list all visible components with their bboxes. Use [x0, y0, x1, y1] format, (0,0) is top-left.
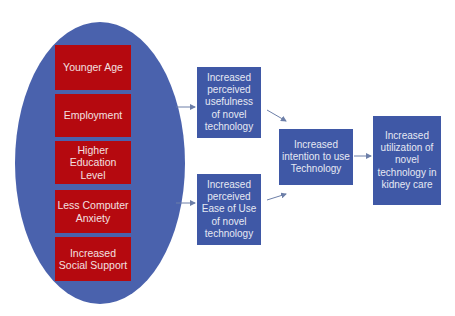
arrows [0, 0, 455, 316]
arrow-ease-to-intention [267, 194, 286, 200]
arrow-usefulness-to-intention [267, 110, 286, 121]
